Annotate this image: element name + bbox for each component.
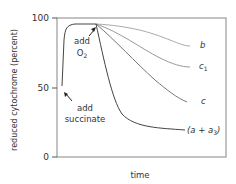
label-a-a3: (a + a3) xyxy=(187,125,220,136)
x-axis-label: time xyxy=(130,170,149,180)
annotation-add-succinate-line2: succinate xyxy=(65,114,106,124)
y-axis-label: reduced cytochrome (percent) xyxy=(10,29,19,151)
label-b: b xyxy=(200,40,205,50)
y-tick-label-50: 50 xyxy=(38,83,50,93)
curve-b xyxy=(96,24,190,46)
chart: 100 50 0 reduced cytochrome (percent) ti… xyxy=(0,0,236,184)
y-tick-label-0: 0 xyxy=(43,152,49,162)
annotation-add-succinate-line1: add xyxy=(77,103,93,113)
annotation-add-o2-line2: O2 xyxy=(77,48,88,59)
y-tick-label-100: 100 xyxy=(32,13,49,23)
label-c: c xyxy=(201,96,206,106)
arrowhead-add-o2 xyxy=(91,27,96,32)
curve-a-a3 xyxy=(96,24,185,130)
annotation-add-o2-line1: add xyxy=(74,36,90,46)
curve-c xyxy=(96,24,187,102)
label-c1: c1 xyxy=(199,61,208,72)
